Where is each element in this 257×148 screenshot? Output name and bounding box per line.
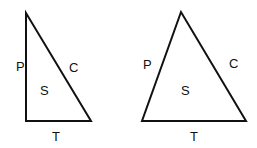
- label-t-left: T: [52, 129, 60, 144]
- scalene-triangle-figure: P C S T: [142, 12, 246, 144]
- right-triangle-figure: P C S T: [16, 13, 91, 144]
- diagram-canvas: P C S T P C S T: [0, 0, 257, 148]
- label-p-left: P: [16, 59, 25, 74]
- label-p-right: P: [143, 57, 152, 72]
- label-s-left: S: [40, 83, 49, 98]
- label-t-right: T: [190, 129, 198, 144]
- right-triangle-shape: [26, 13, 91, 121]
- label-s-right: S: [181, 83, 190, 98]
- label-c-right: C: [229, 56, 238, 71]
- label-c-left: C: [69, 60, 78, 75]
